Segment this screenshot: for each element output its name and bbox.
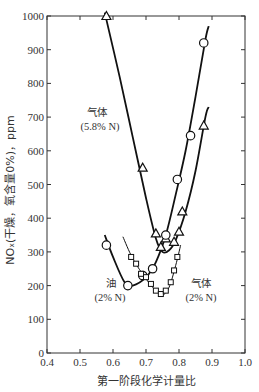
- y-tick-label: 700: [28, 111, 45, 123]
- y-tick-label: 1000: [22, 10, 45, 22]
- annotation-gas-2n-line2: (2% N): [185, 292, 217, 304]
- square-marker: [139, 271, 144, 276]
- circle-marker: [173, 175, 181, 183]
- square-marker: [163, 288, 168, 293]
- annotation-gas-5-8n-line1: 气体: [87, 106, 108, 118]
- y-tick-label: 400: [28, 212, 45, 224]
- square-marker: [153, 288, 158, 293]
- circle-marker: [124, 281, 132, 289]
- square-marker: [148, 281, 153, 286]
- x-tick-label: 0.9: [205, 356, 219, 368]
- series-curve: [105, 26, 209, 286]
- y-axis-ticks: 01002003004005006007008009001000: [22, 10, 245, 359]
- square-marker: [175, 254, 180, 259]
- triangle-marker: [175, 227, 184, 235]
- x-tick-label: 0.5: [73, 356, 87, 368]
- y-tick-label: 200: [28, 280, 45, 292]
- circle-marker: [102, 241, 110, 249]
- square-marker: [144, 275, 149, 280]
- y-axis-title: NOₓ(干燥，氧含量0%)，ppm: [3, 115, 17, 264]
- x-tick-label: 0.7: [139, 356, 153, 368]
- square-marker: [134, 261, 139, 266]
- x-tick-label: 0.6: [106, 356, 120, 368]
- square-marker: [168, 280, 173, 285]
- data-markers: [102, 12, 208, 297]
- circle-marker: [186, 131, 194, 139]
- x-axis-ticks: 0.40.50.60.70.80.91.0: [40, 16, 252, 368]
- circle-marker: [200, 39, 208, 47]
- annotation-oil-2n-line1: 油: [106, 277, 116, 289]
- nox-chart: 0.40.50.60.70.80.91.0 010020030040050060…: [0, 0, 259, 392]
- y-tick-label: 0: [39, 347, 45, 359]
- y-tick-label: 900: [28, 44, 45, 56]
- y-tick-label: 600: [28, 145, 45, 157]
- square-marker: [158, 292, 163, 297]
- y-tick-label: 800: [28, 77, 45, 89]
- data-curves: [105, 13, 209, 295]
- annotation-gas-2n-line1: 气体: [191, 277, 212, 289]
- square-marker: [129, 254, 134, 259]
- y-tick-label: 100: [28, 313, 45, 325]
- x-tick-label: 1.0: [238, 356, 252, 368]
- triangle-marker: [199, 121, 208, 129]
- y-tick-label: 300: [28, 246, 45, 258]
- annotation-oil-2n-line2: (2% N): [94, 292, 126, 304]
- circle-marker: [148, 265, 156, 273]
- y-tick-label: 500: [28, 179, 45, 191]
- x-axis-title: 第一阶段化学计量比: [97, 374, 196, 388]
- square-marker: [172, 268, 177, 273]
- annotation-gas-5-8n-line2: (5.8% N): [80, 121, 120, 133]
- x-tick-label: 0.8: [172, 356, 186, 368]
- circle-marker: [162, 231, 170, 239]
